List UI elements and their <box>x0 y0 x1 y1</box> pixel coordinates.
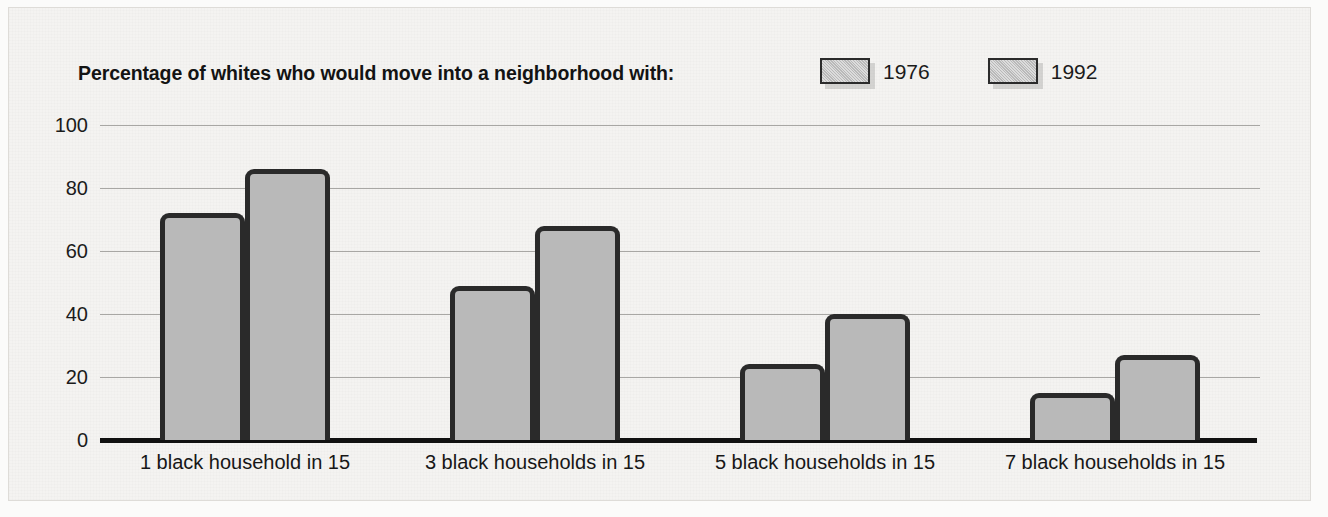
bar-1976-group-2 <box>450 286 535 440</box>
legend-item-1976: 1976 <box>820 58 930 84</box>
bar-1976-group-1 <box>160 213 245 440</box>
x-axis-category-label: 7 black households in 15 <box>1005 452 1225 472</box>
y-axis-tick-label: 60 <box>66 241 88 261</box>
gridline <box>100 125 1260 126</box>
x-axis-category-label: 1 black household in 15 <box>140 452 350 472</box>
bar-1992-group-3 <box>825 314 910 440</box>
bar-1976-group-3 <box>740 364 825 440</box>
x-axis-category-label: 5 black households in 15 <box>715 452 935 472</box>
x-axis-category-label: 3 black households in 15 <box>425 452 645 472</box>
bar-1976-group-4 <box>1030 393 1115 440</box>
chart-title: Percentage of whites who would move into… <box>78 62 674 85</box>
legend-item-1992: 1992 <box>988 58 1098 84</box>
y-axis-tick-label: 20 <box>66 367 88 387</box>
bar-1992-group-4 <box>1115 355 1200 440</box>
y-axis-tick-label: 40 <box>66 304 88 324</box>
legend-swatch-icon <box>820 58 870 84</box>
bar-1992-group-2 <box>535 226 620 440</box>
y-axis-tick-label: 100 <box>55 115 88 135</box>
chart-legend: 1976 1992 <box>820 58 1097 84</box>
y-axis-tick-label: 0 <box>77 430 88 450</box>
figure: Percentage of whites who would move into… <box>0 0 1328 517</box>
y-axis-tick-label: 80 <box>66 178 88 198</box>
bar-1992-group-1 <box>245 169 330 440</box>
legend-label: 1976 <box>883 61 930 82</box>
legend-label: 1992 <box>1051 61 1098 82</box>
legend-swatch-icon <box>988 58 1038 84</box>
plot-area: 020406080100 <box>100 120 1260 445</box>
